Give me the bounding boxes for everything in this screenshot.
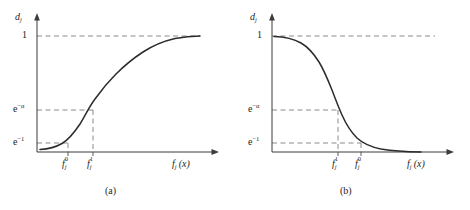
y-axis-label-a: dj (15, 12, 20, 22)
y-tick-label-one-a: 1 (22, 30, 27, 40)
panel-a: dj 1 e−α e−1 f0j f1j fj (x (0, 0, 235, 210)
panel-caption-a: (a) (105, 185, 116, 196)
x-tick-label-fj0-a: f0j (62, 159, 65, 169)
figure-container: dj 1 e−α e−1 f0j f1j fj (x (0, 0, 470, 210)
x-axis-arrow-a (212, 149, 220, 155)
x-tick-label-fj0-b: f0j (355, 159, 358, 169)
x-axis-label-b: fj (x) (407, 159, 425, 169)
y-tick-label-einv-b: e−1 (248, 137, 259, 147)
y-tick-label-einv-a: e−1 (13, 137, 24, 147)
panel-b: dj 1 e−α e−1 f1j f0j fj (x (235, 0, 470, 210)
x-axis-label-a: fj (x) (172, 159, 190, 169)
x-tick-label-fj1-b: f1j (332, 159, 335, 169)
x-tick-label-fj1-a: f1j (87, 159, 90, 169)
y-tick-label-ealpha-b: e−α (248, 104, 260, 114)
x-axis-arrow-b (447, 149, 455, 155)
panel-caption-b: (b) (340, 185, 352, 196)
panel-b-plot (235, 0, 470, 210)
curve-increasing-a (40, 36, 200, 150)
panel-a-plot (0, 0, 235, 210)
y-axis-arrow-a (34, 13, 40, 21)
curve-decreasing-b (274, 37, 421, 153)
y-axis-arrow-b (269, 13, 275, 21)
y-tick-label-one-b: 1 (257, 30, 262, 40)
y-axis-label-b: dj (250, 12, 255, 22)
y-tick-label-ealpha-a: e−α (13, 104, 25, 114)
